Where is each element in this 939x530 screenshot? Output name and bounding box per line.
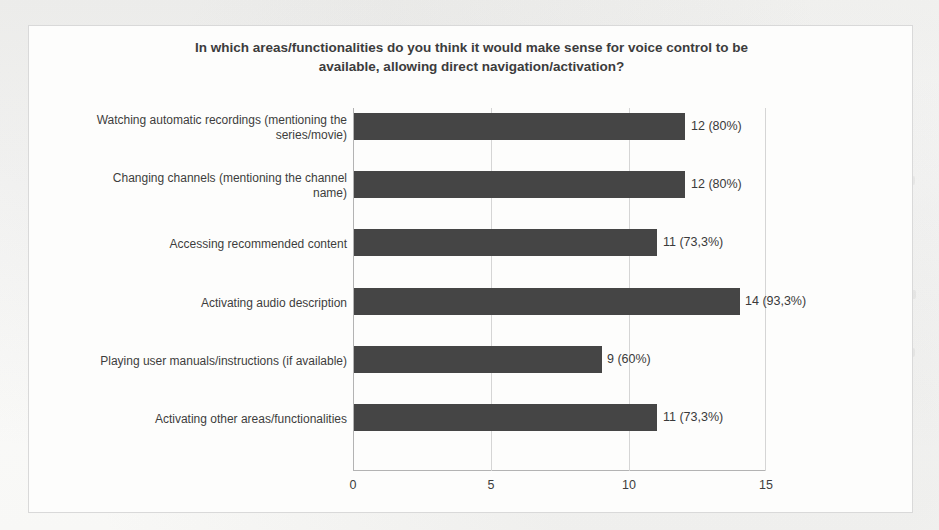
category-label-1-line-2: name) <box>37 186 347 201</box>
category-label-1-line-1: Changing channels (mentioning the channe… <box>37 171 347 186</box>
category-label-5: Activating other areas/functionalities <box>37 412 347 427</box>
chart-title: In which areas/functionalities do you th… <box>119 38 824 76</box>
bar-3[interactable] <box>354 288 740 315</box>
category-label-0: Watching automatic recordings (mentionin… <box>37 113 347 143</box>
bar-0[interactable] <box>354 113 685 140</box>
category-label-5-line-1: Activating other areas/functionalities <box>37 412 347 427</box>
category-label-3: Activating audio description <box>37 296 347 311</box>
x-tick-label-0: 0 <box>350 478 357 492</box>
category-label-4-line-1: Playing user manuals/instructions (if av… <box>37 354 347 369</box>
bar-value-label-5: 11 (73,3%) <box>663 404 723 431</box>
x-tick-label-10: 10 <box>622 478 636 492</box>
bar-value-label-3: 14 (93,3%) <box>745 288 806 315</box>
chart-title-line-2: available, allowing direct navigation/ac… <box>319 59 624 74</box>
category-label-0-line-1: Watching automatic recordings (mentionin… <box>37 113 347 128</box>
bar-value-label-0: 12 (80%) <box>691 113 742 140</box>
category-label-4: Playing user manuals/instructions (if av… <box>37 354 347 369</box>
x-axis-line <box>353 470 766 471</box>
bar-5[interactable] <box>354 404 657 431</box>
category-label-2: Accessing recommended content <box>37 237 347 252</box>
bar-4[interactable] <box>354 346 602 373</box>
bar-2[interactable] <box>354 229 657 256</box>
category-label-0-line-2: series/movie) <box>37 128 347 143</box>
bar-1[interactable] <box>354 171 685 198</box>
x-tick-label-5: 5 <box>488 478 495 492</box>
category-axis-labels: Watching automatic recordings (mentionin… <box>35 108 347 471</box>
bar-value-label-2: 11 (73,3%) <box>663 229 723 256</box>
bar-value-label-1: 12 (80%) <box>691 171 742 198</box>
plot-area: 12 (80%) 12 (80%) 11 (73,3%) 14 (93,3%) … <box>353 108 766 471</box>
chart-title-line-1: In which areas/functionalities do you th… <box>195 40 748 55</box>
category-label-1: Changing channels (mentioning the channe… <box>37 171 347 201</box>
category-label-3-line-1: Activating audio description <box>37 296 347 311</box>
category-label-2-line-1: Accessing recommended content <box>37 237 347 252</box>
chart-frame: In which areas/functionalities do you th… <box>28 25 913 513</box>
bar-value-label-4: 9 (60%) <box>607 346 651 373</box>
x-tick-label-15: 15 <box>759 478 773 492</box>
